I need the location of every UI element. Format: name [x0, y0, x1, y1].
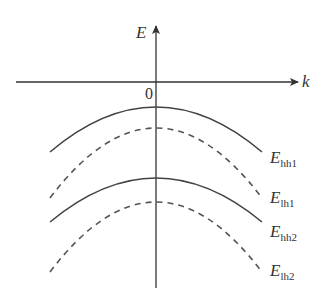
- band-label-main: E: [269, 222, 281, 241]
- band-label-sub: lh1: [280, 197, 294, 209]
- band-label-hh1: Ehh1: [269, 148, 297, 169]
- band-structure-diagram: E k 0 Ehh1 Elh1 Ehh2 Elh2: [0, 0, 321, 294]
- band-label-main: E: [269, 188, 281, 207]
- svg-text:Elh2: Elh2: [269, 261, 294, 282]
- band-label-hh2: Ehh2: [269, 222, 297, 243]
- band-label-sub: lh2: [280, 270, 294, 282]
- svg-text:Elh1: Elh1: [269, 188, 294, 209]
- e-axis-label: E: [135, 23, 147, 42]
- band-label-sub: hh1: [280, 157, 297, 169]
- band-label-sub: hh2: [280, 231, 297, 243]
- band-label-lh1: Elh1: [269, 188, 294, 209]
- k-axis-label: k: [302, 72, 310, 91]
- band-label-lh2: Elh2: [269, 261, 294, 282]
- svg-text:Ehh1: Ehh1: [269, 148, 297, 169]
- band-label-main: E: [269, 261, 281, 280]
- svg-text:Ehh2: Ehh2: [269, 222, 297, 243]
- band-label-main: E: [269, 148, 281, 167]
- origin-label: 0: [145, 85, 153, 102]
